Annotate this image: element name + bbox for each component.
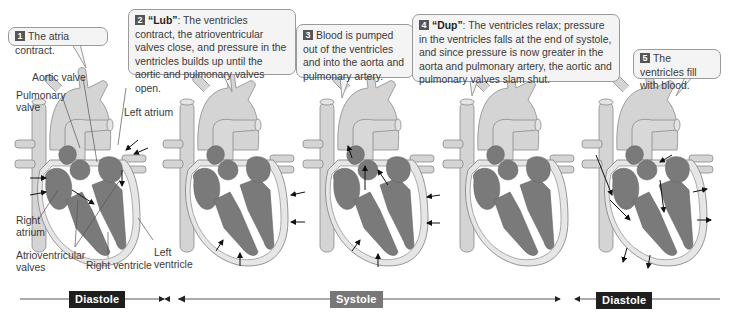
step-number-badge: 2 xyxy=(135,15,145,25)
label-pulmonary-valve: Pulmonary valve xyxy=(16,90,71,114)
step-3-text: Blood is pumped out of the ventricles an… xyxy=(303,30,404,82)
step-1-callout: 1The atria contract. xyxy=(8,27,108,46)
label-right-atrium: Right atrium xyxy=(16,215,56,239)
phase-diastole-2: Diastole xyxy=(596,292,652,309)
dup-label: “Dup” xyxy=(432,20,463,31)
label-av-valves: Atrioventricular valves xyxy=(16,250,86,274)
phase-systole: Systole xyxy=(330,291,383,308)
label-right-ventricle: Right ventricle xyxy=(86,260,152,272)
step-number-badge: 4 xyxy=(419,20,429,30)
step-5-callout: 5The ventricles fill with blood. xyxy=(633,49,721,79)
phase-diastole-1: Diastole xyxy=(69,291,125,308)
step-number-badge: 1 xyxy=(15,31,25,41)
label-left-ventricle: Left ventricle xyxy=(154,247,198,271)
step-number-badge: 5 xyxy=(640,53,650,63)
step-3-callout: 3Blood is pumped out of the ventricles a… xyxy=(296,24,414,78)
step-number-badge: 3 xyxy=(303,30,313,40)
lub-label: “Lub” xyxy=(148,15,177,26)
step-4-callout: 4“Dup”: The ventricles relax; pressure i… xyxy=(412,14,620,82)
step-2-callout: 2“Lub”: The ventricles contract, the atr… xyxy=(128,9,296,75)
label-left-atrium: Left atrium xyxy=(124,107,173,119)
label-aortic-valve: Aortic valve xyxy=(32,72,86,84)
